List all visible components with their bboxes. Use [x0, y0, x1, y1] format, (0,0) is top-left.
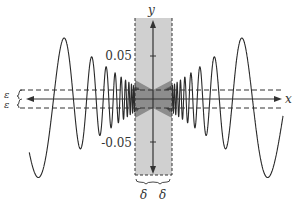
delta-brace-left [136, 179, 153, 184]
y-axis-label: y [147, 3, 155, 17]
epsilon-brace-upper [17, 90, 22, 99]
delta-brace-right [153, 179, 170, 184]
epsilon-label-lower: ε [4, 99, 9, 110]
delta-label-left: δ [140, 188, 147, 202]
x-axis-arrow-right [274, 96, 282, 102]
y-tick-label-neg: -0.05 [101, 136, 132, 150]
x-axis-label: x [285, 92, 292, 106]
delta-label-right: δ [159, 188, 166, 202]
x-axis-arrow-left [26, 96, 34, 102]
epsilon-brace-lower [17, 99, 22, 108]
epsilon-delta-diagram: 0.05 -0.05 y x ε ε δ δ [0, 0, 298, 208]
y-tick-label-pos: 0.05 [105, 49, 132, 63]
